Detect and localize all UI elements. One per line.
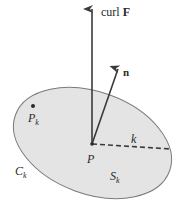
point-p-label: P xyxy=(86,152,95,166)
radius-k-label: k xyxy=(131,132,137,146)
curve-ck-label: Ck xyxy=(15,164,27,180)
normal-n-label: n xyxy=(123,66,129,78)
point-pk-dot xyxy=(31,104,35,108)
point-p-dot xyxy=(90,142,94,146)
curl-f-label: curl F xyxy=(101,5,130,19)
curl-surface-diagram: curl F n P Pk k Ck Sk xyxy=(0,0,184,211)
